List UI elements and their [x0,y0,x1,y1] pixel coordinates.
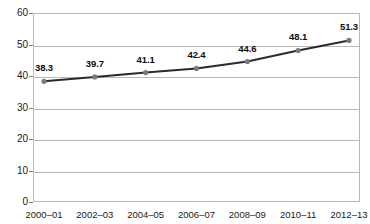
y-tick-mark [29,202,33,203]
y-tick-mark [29,171,33,172]
data-point-label: 42.4 [187,50,205,60]
y-axis: 0102030405060 [0,0,28,224]
x-tick-label: 2010–11 [280,209,316,220]
line-chart: 0102030405060 2000–012002–032004–052006–… [0,0,370,224]
y-tick-mark [29,139,33,140]
x-tick-label: 2008–09 [229,209,266,220]
y-tick-mark [29,108,33,109]
x-tick-label: 2012–13 [331,209,368,220]
gridline [34,172,359,173]
y-tick-label: 60 [0,8,28,18]
data-point-label: 39.7 [86,59,104,69]
y-tick-label: 0 [0,197,28,207]
y-tick-label: 30 [0,103,28,113]
x-tick-label: 2004–05 [127,209,164,220]
data-point-label: 48.1 [289,32,307,42]
y-tick-mark [29,13,33,14]
gridline [34,77,359,78]
data-point-label: 38.3 [35,63,53,73]
data-point-label: 44.6 [238,44,256,54]
gridline [34,109,359,110]
x-tick-label: 2002–03 [76,209,113,220]
plot-area [33,13,360,202]
y-tick-mark [29,76,33,77]
y-tick-label: 20 [0,134,28,144]
x-tick-label: 2006–07 [178,209,215,220]
gridline [34,140,359,141]
y-tick-label: 10 [0,166,28,176]
y-tick-mark [29,45,33,46]
gridline [34,46,359,47]
data-point-label: 51.3 [340,22,358,32]
x-tick-label: 2000–01 [26,209,63,220]
data-point-label: 41.1 [137,55,155,65]
y-tick-label: 40 [0,71,28,81]
y-tick-label: 50 [0,40,28,50]
